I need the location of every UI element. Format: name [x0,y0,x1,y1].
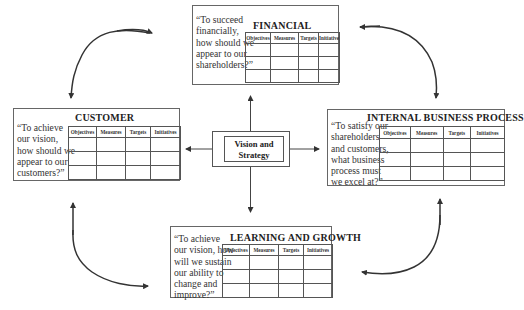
col-initiatives: Initiatives [151,127,181,138]
vision-and-strategy-label: Vision and Strategy [224,136,284,162]
col-objectives: Objectives [69,127,97,138]
vision-label-line1: Vision and [225,139,283,150]
financial-table: Objectives Measures Targets Initiatives [245,32,340,83]
perspective-customer: “To achieve our vision, how should we ap… [13,108,180,181]
col-measures: Measures [410,127,443,139]
col-initiatives: Initiatives [319,33,340,44]
curved-arrow-bottom-right [362,215,440,274]
perspective-internal-business-process: “To satisfy our shareholders and custome… [327,109,505,186]
col-initiatives: Initiatives [470,127,504,139]
internal-business-process-title: INTERNAL BUSINESS PROCESS [367,112,524,123]
learning-and-growth-title: LEARNING AND GROWTH [230,232,361,243]
curved-arrow-bottom-left [73,230,148,286]
learning-and-growth-table: Objectives Measures Targets Initiatives [222,244,333,298]
table-row [223,284,333,298]
curved-arrow-top-left [71,30,150,98]
internal-business-process-table: Objectives Measures Targets Initiatives [379,126,505,181]
col-initiatives: Initiatives [304,245,333,256]
financial-title: FINANCIAL [253,20,311,31]
table-row [223,256,333,270]
table-row [246,57,340,70]
col-targets: Targets [126,127,151,138]
table-row [246,70,340,83]
table-row [380,167,505,181]
customer-question: “To achieve our vision, how should we ap… [17,122,75,178]
perspective-learning-and-growth: “To achieve our vision, how will we sust… [170,226,332,298]
table-row [380,153,505,167]
table-row [380,139,505,153]
table-row [223,270,333,284]
customer-title: CUSTOMER [75,112,134,123]
vision-and-strategy-box: Vision and Strategy [212,131,290,167]
col-measures: Measures [271,33,299,44]
col-targets: Targets [279,245,304,256]
table-row [69,166,181,180]
col-measures: Measures [250,245,279,256]
vision-label-line2: Strategy [225,150,283,161]
perspective-financial: “To succeed financially, how should we a… [192,5,339,85]
curved-arrow-top-right [360,27,437,98]
table-row [246,44,340,57]
table-row [69,152,181,166]
table-row [69,138,181,152]
col-targets: Targets [443,127,470,139]
col-measures: Measures [97,127,126,138]
customer-table: Objectives Measures Targets Initiatives [68,126,181,180]
col-targets: Targets [299,33,319,44]
col-objectives: Objectives [246,33,271,44]
col-objectives: Objectives [223,245,250,256]
col-objectives: Objectives [380,127,411,139]
